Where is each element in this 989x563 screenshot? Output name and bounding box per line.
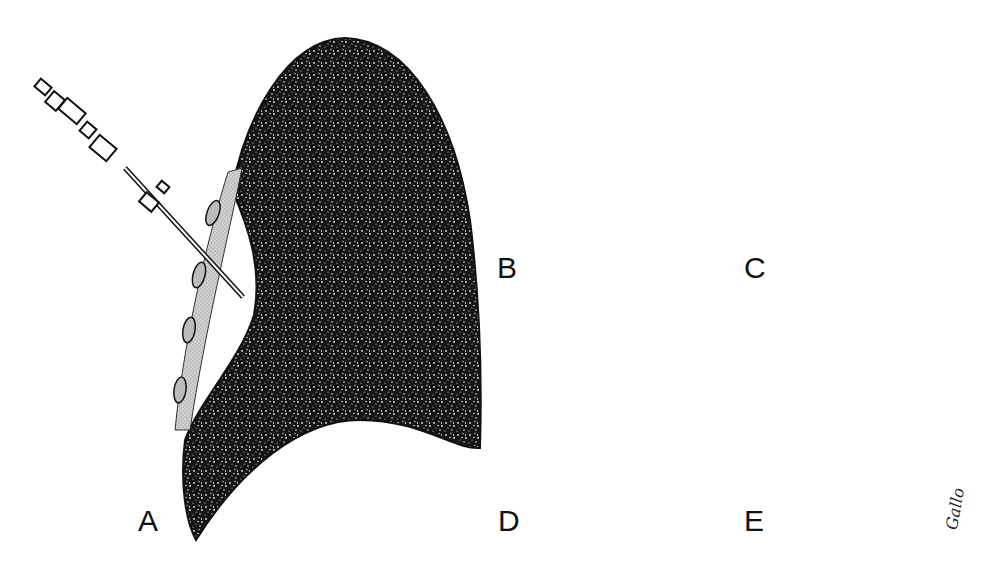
panel-label-a: A — [138, 506, 158, 536]
lung-a — [183, 38, 481, 540]
panel-a — [34, 38, 480, 540]
panel-label-e: E — [744, 506, 764, 536]
needle-instrument — [34, 79, 243, 297]
panel-label-c: C — [744, 253, 766, 283]
figure-canvas — [0, 0, 989, 563]
panel-label-d: D — [498, 506, 520, 536]
panel-label-b: B — [497, 253, 517, 283]
